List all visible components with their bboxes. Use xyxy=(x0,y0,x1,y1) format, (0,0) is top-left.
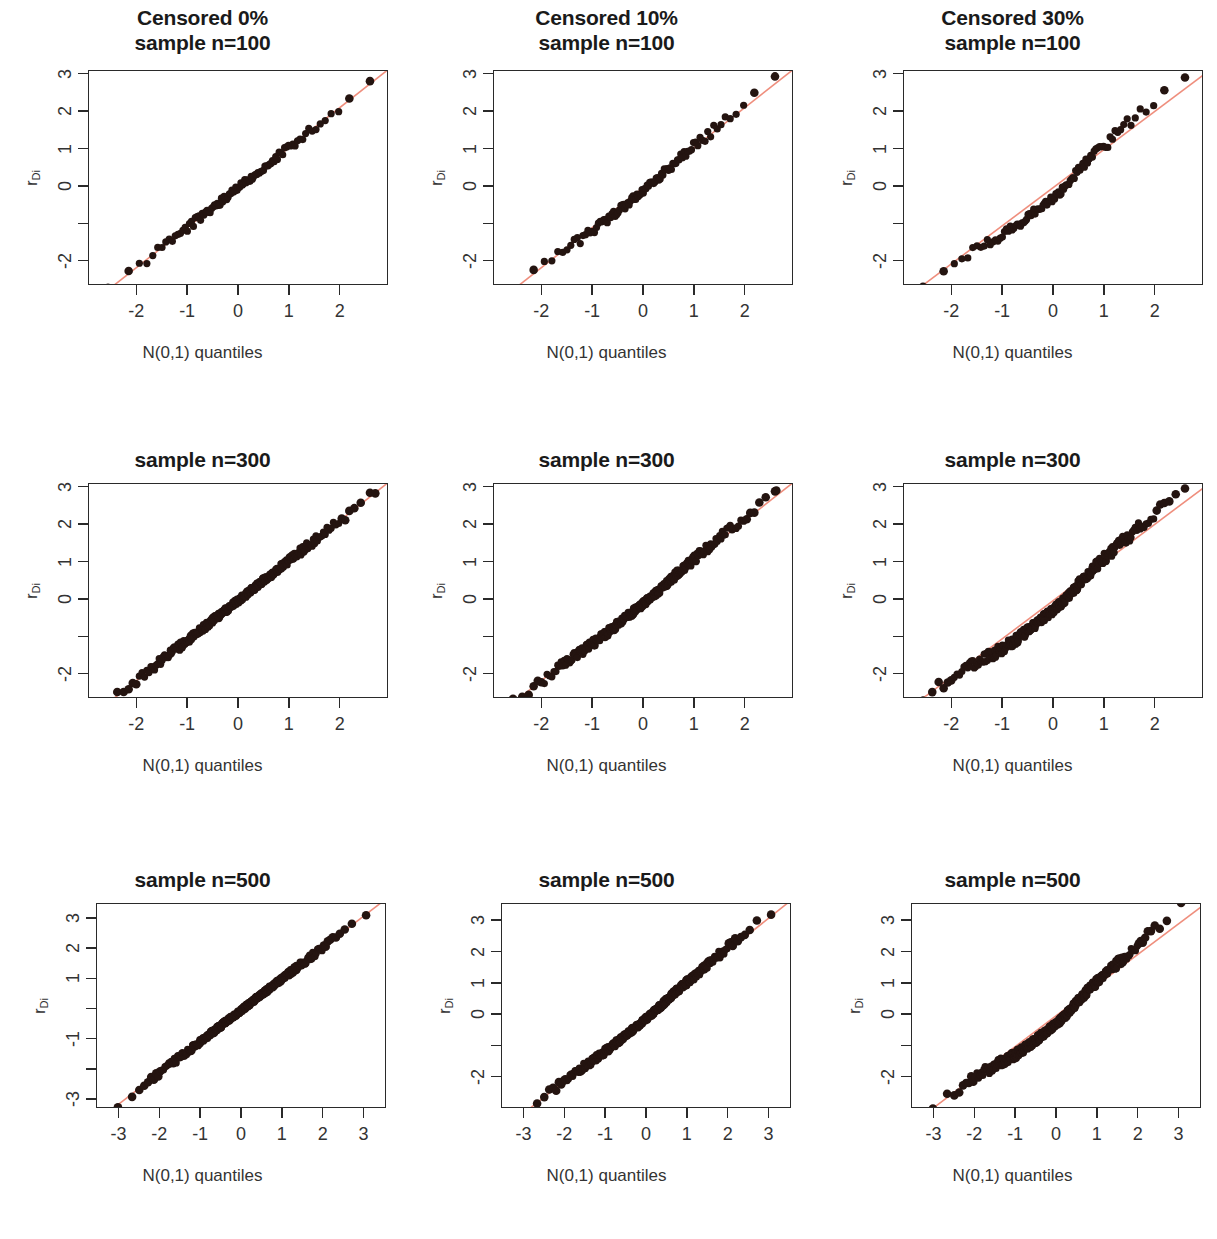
plot-area xyxy=(89,484,387,697)
y-tick-mark xyxy=(86,978,96,980)
reference-line xyxy=(904,487,1202,697)
x-tick-mark xyxy=(933,1108,935,1118)
x-tick-mark xyxy=(686,1108,688,1118)
x-axis-label: N(0,1) quantiles xyxy=(405,1166,808,1186)
y-tick-mark xyxy=(78,486,88,488)
x-tick-label: -2 xyxy=(926,301,976,322)
data-points xyxy=(919,484,1190,697)
y-tick-label: -2 xyxy=(54,649,76,699)
y-axis-label-subscript: Di xyxy=(30,583,42,593)
plot-area xyxy=(502,904,790,1107)
y-tick-mark xyxy=(483,523,493,525)
x-tick-mark xyxy=(591,285,593,295)
x-axis-label: N(0,1) quantiles xyxy=(0,1166,405,1186)
qq-panel-r1c2: Censored 10% sample n=100-2-1012-20123rD… xyxy=(405,0,808,420)
y-tick-mark xyxy=(491,1045,501,1047)
x-tick-mark xyxy=(339,285,341,295)
x-axis-label: N(0,1) quantiles xyxy=(405,756,808,776)
x-tick-mark xyxy=(744,698,746,708)
scatter-svg xyxy=(904,71,1202,284)
panel-title: sample n=500 xyxy=(0,867,405,892)
x-tick-label: 2 xyxy=(720,714,770,735)
scatter-svg xyxy=(494,71,792,284)
y-tick-mark xyxy=(893,561,903,563)
y-tick-mark xyxy=(901,982,911,984)
y-axis-label-subscript: Di xyxy=(853,998,865,1008)
x-tick-mark xyxy=(240,1108,242,1118)
y-tick-label: 3 xyxy=(62,893,84,943)
x-tick-mark xyxy=(744,285,746,295)
x-tick-mark xyxy=(322,1108,324,1118)
x-tick-mark xyxy=(974,1108,976,1118)
x-tick-label: -1 xyxy=(162,301,212,322)
x-tick-mark xyxy=(768,1108,770,1118)
y-tick-mark xyxy=(86,1098,96,1100)
plot-frame xyxy=(88,70,388,285)
qq-panel-r2c2: sample n=300-2-1012-20123rDiN(0,1) quant… xyxy=(405,420,808,840)
y-tick-mark xyxy=(483,148,493,150)
y-tick-mark xyxy=(78,673,88,675)
reference-line xyxy=(89,71,387,284)
y-tick-mark xyxy=(901,951,911,953)
y-axis-label-subscript: Di xyxy=(38,998,50,1008)
x-axis-label: N(0,1) quantiles xyxy=(808,1166,1217,1186)
y-tick-mark xyxy=(78,636,88,638)
plot-area xyxy=(89,71,387,284)
plot-frame xyxy=(88,483,388,698)
y-tick-label: -2 xyxy=(877,1052,899,1102)
x-tick-label: -1 xyxy=(977,301,1027,322)
x-tick-mark xyxy=(564,1108,566,1118)
x-tick-mark xyxy=(642,698,644,708)
panel-title: Censored 30% sample n=100 xyxy=(808,5,1217,55)
data-points xyxy=(509,72,780,284)
x-tick-label: -2 xyxy=(926,714,976,735)
y-tick-mark xyxy=(483,73,493,75)
y-tick-label: -2 xyxy=(54,236,76,286)
plot-area xyxy=(912,904,1200,1107)
y-tick-mark xyxy=(78,223,88,225)
y-tick-label: -1 xyxy=(62,1014,84,1064)
plot-area xyxy=(494,484,792,697)
y-tick-mark xyxy=(86,1008,96,1010)
y-tick-label: 3 xyxy=(54,49,76,99)
x-tick-mark xyxy=(591,698,593,708)
y-tick-mark xyxy=(491,1013,501,1015)
x-tick-label: 1 xyxy=(669,714,719,735)
x-tick-mark xyxy=(1103,285,1105,295)
y-tick-mark xyxy=(901,1045,911,1047)
panel-title: sample n=500 xyxy=(405,867,808,892)
reference-line xyxy=(912,906,1200,1107)
plot-area xyxy=(904,71,1202,284)
x-tick-mark xyxy=(951,698,953,708)
x-tick-label: 2 xyxy=(1130,714,1180,735)
x-tick-mark xyxy=(604,1108,606,1118)
y-tick-label: 3 xyxy=(467,895,489,945)
plot-frame xyxy=(501,903,791,1108)
y-axis-label-subscript: Di xyxy=(845,170,857,180)
y-tick-mark xyxy=(893,110,903,112)
x-tick-label: 0 xyxy=(618,714,668,735)
y-axis-label-subscript: Di xyxy=(30,170,42,180)
x-tick-mark xyxy=(1001,285,1003,295)
data-points xyxy=(519,910,776,1107)
x-tick-mark xyxy=(136,285,138,295)
y-tick-mark xyxy=(491,919,501,921)
x-tick-mark xyxy=(1052,285,1054,295)
y-tick-mark xyxy=(893,673,903,675)
y-tick-mark xyxy=(901,1013,911,1015)
x-tick-label: 2 xyxy=(1130,301,1180,322)
y-tick-mark xyxy=(86,1038,96,1040)
y-tick-mark xyxy=(893,598,903,600)
scatter-svg xyxy=(912,904,1200,1107)
x-tick-mark xyxy=(237,698,239,708)
plot-frame xyxy=(903,483,1203,698)
y-axis-label: rDi xyxy=(844,976,866,1036)
y-tick-label: -3 xyxy=(62,1074,84,1124)
x-tick-label: 2 xyxy=(315,714,365,735)
y-tick-mark xyxy=(78,598,88,600)
x-tick-label: 3 xyxy=(1154,1124,1204,1145)
y-axis-label: rDi xyxy=(836,148,858,208)
y-tick-label: -2 xyxy=(869,649,891,699)
scatter-svg xyxy=(904,484,1202,697)
y-axis-label: rDi xyxy=(426,148,448,208)
